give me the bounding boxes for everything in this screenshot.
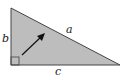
triangle-diagram	[0, 0, 127, 80]
label-a: a	[66, 24, 73, 35]
right-triangle	[11, 8, 120, 65]
label-b: b	[2, 33, 9, 44]
label-c: c	[55, 66, 61, 77]
